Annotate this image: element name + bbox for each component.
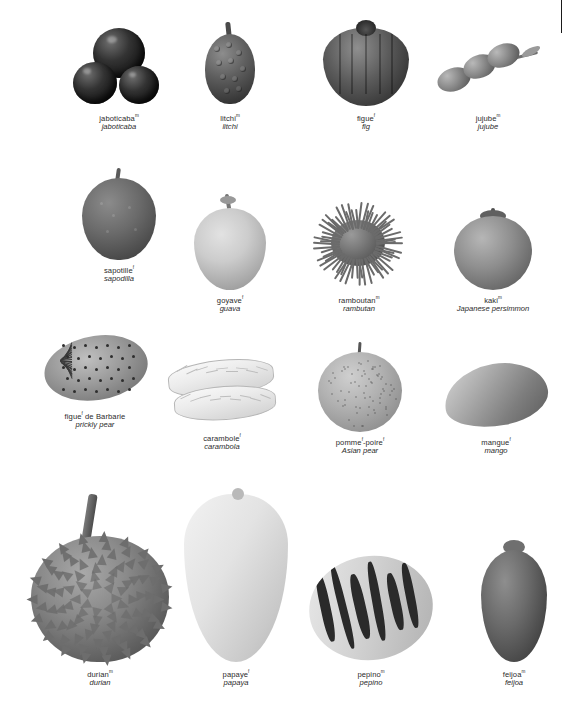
caption: litchim litchi [220,113,240,132]
fruit-cell-durian[interactable]: durianm durian [20,488,180,688]
pepino-fruit-icon [309,540,433,664]
fruit-cell-jaboticaba[interactable]: jaboticabam jaboticaba [54,24,184,132]
caption: figuef fig [357,113,375,132]
caption-en: sapodilla [104,275,134,284]
caption: pepinom pepino [357,669,384,688]
litchi-fruit-icon [202,24,258,108]
fruit-cell-pepino[interactable]: pepinom pepino [312,540,430,688]
guava-fruit-icon [194,168,266,290]
caption: sapotillef sapodilla [104,265,134,284]
jujube-fruit-icon [433,24,543,108]
caption: papayef papaya [223,669,250,688]
fruit-cell-mangue[interactable]: manguef mango [438,336,554,456]
caption: carambolef carambola [203,433,241,452]
caption: manguef mango [481,437,510,456]
asian-pear-fruit-icon [318,330,402,432]
caption-en: jujube [476,123,501,132]
caption-en: mango [481,447,510,456]
caption-en: feijoa [503,679,526,688]
feijoa-fruit-icon [481,530,547,664]
mango-fruit-icon [444,336,548,432]
fig-fruit-icon [323,24,409,108]
caption: feijoam feijoa [503,669,526,688]
fruit-grid: jaboticabam jaboticaba [0,0,576,713]
fruit-cell-figue[interactable]: figuef fig [314,24,418,132]
caption: pommef-poiref Asian pear [336,437,384,456]
caption-en: papaya [223,679,250,688]
durian-fruit-icon [25,488,175,664]
fruit-cell-pomme-poire[interactable]: pommef-poiref Asian pear [302,330,418,456]
caption-en: rambutan [338,305,379,314]
caption-en: fig [357,123,375,132]
caption-en: jaboticaba [99,123,138,132]
fruit-cell-sapotille[interactable]: sapotillef sapodilla [54,168,184,284]
caption-en: Japanese persimmon [457,305,530,314]
rambutan-fruit-icon [305,168,413,290]
caption: kakim Japanese persimmon [457,295,530,314]
fruit-cell-figue-de-barbarie[interactable]: figuef de Barbarie prickly pear [30,320,160,430]
fruit-cell-ramboutan[interactable]: ramboutanm rambutan [300,168,418,314]
jaboticaba-fruit-icon [71,24,167,108]
caption: jaboticabam jaboticaba [99,113,138,132]
sapodilla-fruit-icon [82,168,156,260]
caption: goyavef guava [217,295,243,314]
caption: ramboutanm rambutan [338,295,379,314]
caption: figuef de Barbarie prickly pear [65,411,126,430]
papaya-fruit-icon [180,488,292,664]
fruit-plate-page: jaboticabam jaboticaba [0,0,576,713]
caption-en: pepino [357,679,384,688]
carambola-fruit-icon [166,348,278,428]
caption-en: Asian pear [336,447,384,456]
prickly-pear-fruit-icon [40,320,150,406]
caption-en: durian [87,679,113,688]
fruit-cell-carambole[interactable]: carambolef carambola [164,348,280,452]
fruit-cell-litchi[interactable]: litchim litchi [180,24,280,132]
fruit-cell-feijoa[interactable]: feijoam feijoa [456,530,572,688]
caption-en: carambola [203,443,241,452]
caption: jujubem jujube [476,113,501,132]
fruit-cell-goyave[interactable]: goyavef guava [172,168,288,314]
fruit-cell-papaye[interactable]: papayef papaya [178,488,294,688]
caption-en: litchi [220,123,240,132]
persimmon-fruit-icon [454,168,532,290]
fruit-cell-jujube[interactable]: jujubem jujube [428,24,548,132]
caption-en: guava [217,305,243,314]
caption-en: prickly pear [65,421,126,430]
caption: durianm durian [87,669,113,688]
fruit-cell-kaki[interactable]: kakim Japanese persimmon [428,168,558,314]
